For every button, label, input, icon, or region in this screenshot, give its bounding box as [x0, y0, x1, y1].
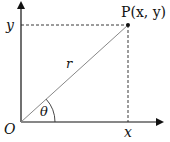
origin-label: O	[4, 121, 16, 137]
radius-line	[21, 25, 128, 122]
polar-diagram: P(x, y) y r θ O x	[0, 0, 170, 142]
point-p	[126, 23, 130, 27]
y-tick-label: y	[5, 17, 15, 33]
point-label: P(x, y)	[121, 4, 166, 20]
angle-label: θ	[40, 104, 48, 119]
radius-label: r	[66, 56, 73, 71]
x-tick-label: x	[124, 124, 132, 140]
